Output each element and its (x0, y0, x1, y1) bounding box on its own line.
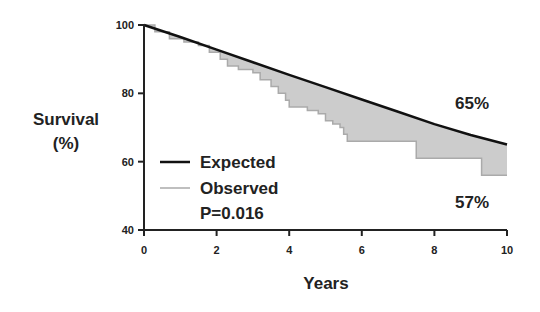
x-tick-label: 2 (214, 244, 220, 256)
legend-expected-label: Expected (200, 153, 276, 172)
difference-fill-area (144, 25, 507, 175)
x-tick-label: 6 (359, 244, 365, 256)
y-tick-label: 60 (122, 156, 134, 168)
y-tick-label: 100 (116, 19, 134, 31)
expected-final-annotation: 65% (455, 94, 489, 113)
x-tick-label: 8 (431, 244, 437, 256)
y-tick-label: 40 (122, 224, 134, 236)
x-axis: 0246810 (141, 230, 513, 256)
x-tick-label: 10 (501, 244, 513, 256)
y-axis: 406080100 (116, 19, 144, 236)
legend-observed-label: Observed (200, 179, 278, 198)
survival-chart: 406080100 0246810 Survival (%) Years Exp… (0, 0, 540, 312)
x-tick-label: 0 (141, 244, 147, 256)
legend: Expected Observed P=0.016 (160, 153, 278, 223)
x-axis-title: Years (303, 274, 348, 293)
p-value-label: P=0.016 (200, 204, 264, 223)
x-tick-label: 4 (286, 244, 293, 256)
expected-line (144, 25, 507, 145)
y-axis-title-line2: (%) (53, 134, 79, 153)
y-tick-label: 80 (122, 87, 134, 99)
observed-final-annotation: 57% (455, 193, 489, 212)
y-axis-title-line1: Survival (33, 110, 99, 129)
